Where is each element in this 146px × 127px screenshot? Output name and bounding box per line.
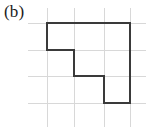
figure-container: (b) (0, 0, 146, 127)
staircase-polygon-outline (47, 23, 130, 103)
figure-canvas (0, 0, 146, 127)
grid-layer (28, 8, 146, 127)
